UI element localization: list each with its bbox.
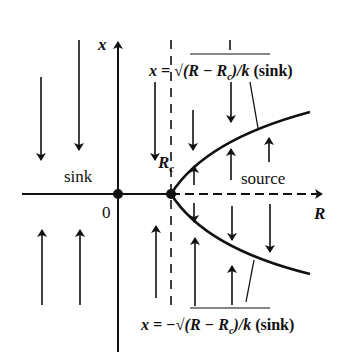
r-axis-label: R <box>313 204 325 223</box>
bifurcation-diagram: x R 0 sink source Rc x = √(R − Rc)/k (si… <box>0 0 345 352</box>
upper-branch-formula: x = √(R − Rc)/k (sink) <box>148 62 293 82</box>
x-axis-label: x <box>97 35 107 54</box>
lower-branch-curve <box>171 194 310 274</box>
upper-leader-line <box>250 82 258 128</box>
rc-label-sub: c <box>169 162 174 174</box>
origin-fixed-point <box>113 189 123 199</box>
rc-fixed-point <box>166 189 176 199</box>
lower-branch-formula: x = −√(R − Rc)/k (sink) <box>140 316 294 336</box>
source-region-label: source <box>241 169 285 188</box>
rc-label-main: R <box>157 153 169 172</box>
sink-region-label: sink <box>64 167 93 186</box>
lower-leader-line <box>246 260 254 302</box>
origin-label: 0 <box>102 203 111 222</box>
